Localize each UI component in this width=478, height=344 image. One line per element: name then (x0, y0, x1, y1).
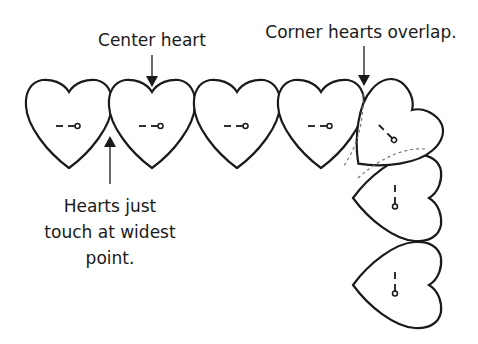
touch-label-line2: touch at widest (44, 222, 176, 242)
corner-overlap-label: Corner hearts overlap. (265, 22, 456, 42)
touch-label-line1: Hearts just (64, 196, 157, 216)
row-heart (278, 80, 364, 168)
corner-overlap-arrow (358, 46, 370, 86)
row-heart (194, 80, 280, 168)
touch-point-arrow (104, 136, 116, 184)
touch-label-line3: point. (86, 248, 135, 268)
column-heart (353, 155, 441, 241)
heart-layout-diagram: Center heart Corner hearts overlap. Hear… (0, 0, 478, 344)
center-heart-label: Center heart (98, 30, 206, 50)
center-heart-arrow (146, 55, 158, 87)
row-heart-center (109, 80, 195, 168)
column-heart-bottom (353, 242, 441, 328)
row-heart (26, 80, 112, 168)
